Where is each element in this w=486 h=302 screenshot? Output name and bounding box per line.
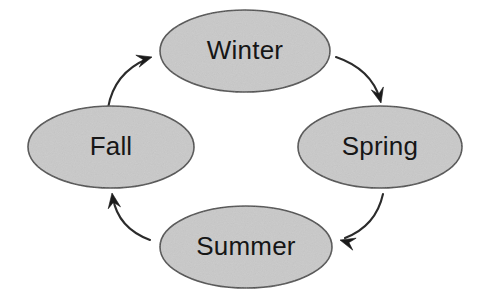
node-label-fall: Fall xyxy=(90,131,133,161)
node-label-winter: Winter xyxy=(207,35,283,65)
node-spring[interactable]: Spring xyxy=(298,106,462,188)
node-label-summer: Summer xyxy=(196,231,296,261)
nodes-layer: WinterSpringSummerFall xyxy=(28,10,462,288)
arrow-winter-to-spring xyxy=(336,57,387,104)
node-fall[interactable]: Fall xyxy=(28,106,194,188)
arrow-fall-to-winter xyxy=(108,51,154,108)
arrow-summer-to-fall xyxy=(106,192,150,240)
arrow-curve xyxy=(345,194,383,238)
arrow-head-icon xyxy=(371,87,387,105)
diagram-canvas: WinterSpringSummerFall xyxy=(0,0,486,302)
node-winter[interactable]: Winter xyxy=(160,10,330,92)
arrow-spring-to-summer xyxy=(338,194,383,250)
arrow-head-icon xyxy=(136,51,154,67)
seasons-cycle-diagram: WinterSpringSummerFall xyxy=(0,0,486,302)
arrow-curve xyxy=(108,59,147,108)
node-label-spring: Spring xyxy=(342,131,418,161)
node-summer[interactable]: Summer xyxy=(160,206,332,288)
arrow-head-icon xyxy=(106,192,121,209)
